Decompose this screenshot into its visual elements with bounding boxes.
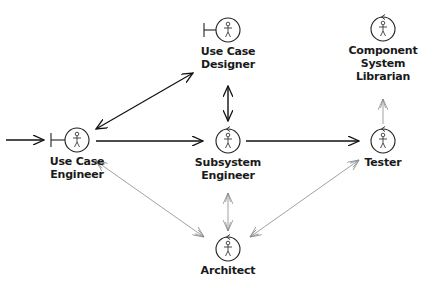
label-use-case-designer: Use Case Designer (201, 45, 256, 71)
node-subsystem-engineer[interactable] (216, 127, 240, 154)
node-component-system-librarian[interactable] (371, 15, 395, 42)
node-tester[interactable] (371, 127, 395, 154)
label-architect: Architect (201, 264, 256, 277)
label-line: Use Case (201, 45, 256, 58)
label-line: Component (348, 44, 417, 57)
label-use-case-engineer: Use Case Engineer (50, 155, 105, 181)
control-worker-icon (371, 15, 395, 42)
boundary-worker-icon (204, 18, 240, 42)
label-subsystem-engineer: Subsystem Engineer (195, 156, 261, 182)
label-line: System (348, 57, 417, 70)
boundary-worker-icon (51, 128, 89, 152)
control-worker-icon (371, 127, 395, 154)
node-use-case-engineer[interactable] (51, 128, 89, 152)
control-worker-icon (216, 127, 240, 154)
label-line: Librarian (348, 70, 417, 83)
label-line: Subsystem (195, 156, 261, 169)
node-architect[interactable] (216, 235, 240, 262)
label-line: Engineer (50, 168, 105, 181)
edge-use-case-engineer-architect (96, 161, 204, 237)
edge-use-case-engineer-use-case-designer (96, 73, 193, 129)
label-line: Designer (201, 58, 256, 71)
label-line: Use Case (50, 155, 105, 168)
control-worker-icon (216, 235, 240, 262)
edge-tester-architect (250, 160, 359, 237)
label-line: Engineer (195, 169, 261, 182)
label-component-system-librarian: Component System Librarian (348, 44, 417, 83)
label-tester: Tester (365, 156, 402, 169)
node-use-case-designer[interactable] (204, 18, 240, 42)
label-line: Architect (201, 264, 256, 277)
label-line: Tester (365, 156, 402, 169)
